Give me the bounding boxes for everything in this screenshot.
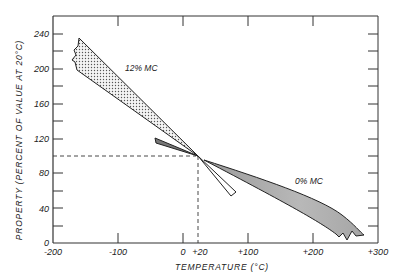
y-tick-label: 80	[39, 168, 49, 178]
series-12mc-band	[72, 38, 198, 156]
x-ticks	[118, 16, 313, 243]
annotation-0mc: 0% MC	[295, 176, 324, 186]
x-tick-label: +100	[238, 247, 258, 257]
x-tick-label: -200	[44, 247, 62, 257]
x-tick-labels: -200 -100 0 +20 +100 +200 +300	[44, 247, 388, 257]
x-tick-label: +20	[192, 247, 207, 257]
series-0mc-band	[204, 160, 364, 240]
y-tick-label: 120	[34, 134, 49, 144]
y-tick-label: 200	[33, 64, 49, 74]
annotation-12mc: 12% MC	[125, 63, 158, 73]
series-12mc-extension	[198, 156, 236, 196]
y-tick-labels: 240 200 160 120 80 40 0	[33, 29, 49, 248]
y-tick-label: 40	[39, 204, 49, 214]
reference-lines	[53, 156, 198, 243]
x-tick-label: 0	[180, 247, 185, 257]
x-tick-label: -100	[109, 247, 127, 257]
y-axis-title: PROPERTY (PERCENT OF VALUE AT 20°C)	[14, 40, 24, 241]
y-tick-label: 240	[33, 29, 49, 39]
x-tick-label: +300	[368, 247, 388, 257]
x-tick-label: +200	[303, 247, 323, 257]
x-axis-title: TEMPERATURE (°C)	[175, 262, 269, 272]
y-tick-label: 160	[34, 99, 49, 109]
chart: 240 200 160 120 80 40 0 -200 -100 0 +20 …	[0, 0, 396, 280]
